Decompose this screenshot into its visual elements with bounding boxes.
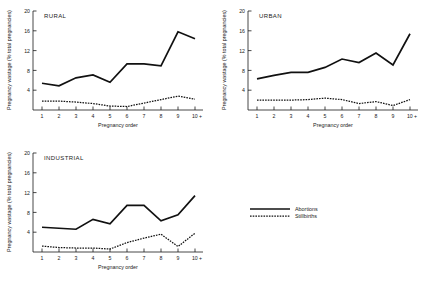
urban-xticklabel-7: 7 [358,113,361,119]
rural-panel-title: RURAL [44,13,67,19]
urban-xticklabel-9: 9 [392,113,395,119]
urban-yticklabel-16: 16 [239,28,245,34]
urban-xticklabel-8: 8 [375,113,378,119]
urban-panel-title: URBAN [259,13,282,19]
industrial-chart-svg: 20 16 12 8 4 1 2 3 4 5 6 [0,142,215,284]
industrial-xticklabel-6: 6 [126,255,129,261]
urban-xticklabel-10: 10 + [407,113,417,119]
legend-label-abortions: Abortions [295,206,318,212]
rural-yaxis-title: Pregnancy wastage (% total pregnancies) [6,10,12,110]
urban-yticklabel-20: 20 [239,8,245,14]
industrial-xticklabel-2: 2 [58,255,61,261]
industrial-axes: 20 16 12 8 4 1 2 3 4 5 6 [24,150,203,261]
rural-yticklabel-16: 16 [24,28,30,34]
urban-series-stillbirths-line [257,98,410,105]
industrial-xticklabel-9: 9 [177,255,180,261]
urban-xticklabel-5: 5 [324,113,327,119]
industrial-series-abortions-line [42,196,195,230]
legend-svg: Abortions Stillbirths [248,200,368,230]
rural-xticklabel-6: 6 [126,113,129,119]
rural-xaxis-title: Pregnancy order [98,122,138,128]
industrial-xticklabel-8: 8 [160,255,163,261]
industrial-panel-title: INDUSTRIAL [44,155,84,161]
urban-yticklabel-8: 8 [242,68,245,74]
urban-xticklabel-3: 3 [290,113,293,119]
industrial-yticklabel-20: 20 [24,150,30,156]
rural-xticklabel-1: 1 [41,113,44,119]
urban-chart-svg: 20 16 12 8 4 1 2 3 4 5 6 [215,0,430,142]
rural-xticklabel-8: 8 [160,113,163,119]
rural-xticklabel-4: 4 [92,113,95,119]
rural-axis-lines [33,11,203,110]
industrial-axis-lines [33,153,203,252]
rural-chart-svg: 20 16 12 8 4 1 2 3 4 5 6 [0,0,215,142]
industrial-xticklabel-7: 7 [143,255,146,261]
rural-xticklabel-3: 3 [75,113,78,119]
urban-yticklabel-12: 12 [239,48,245,54]
chart-panel-industrial: 20 16 12 8 4 1 2 3 4 5 6 [0,142,215,284]
chart-panel-rural: 20 16 12 8 4 1 2 3 4 5 6 [0,0,215,142]
rural-series-stillbirths-line [42,96,195,106]
industrial-xticklabel-3: 3 [75,255,78,261]
industrial-yticklabel-12: 12 [24,190,30,196]
industrial-series-stillbirths-line [42,233,195,249]
urban-xticklabel-4: 4 [307,113,310,119]
rural-xticklabel-9: 9 [177,113,180,119]
industrial-yticklabel-16: 16 [24,170,30,176]
figure-legend: Abortions Stillbirths [248,200,368,230]
urban-xticklabel-1: 1 [256,113,259,119]
rural-yticklabel-4: 4 [27,87,30,93]
urban-yaxis-title: Pregnancy wastage (% total pregnancies) [221,10,227,110]
industrial-xaxis-title: Pregnancy order [98,264,138,270]
urban-xticklabel-6: 6 [341,113,344,119]
urban-series-abortions-line [257,34,410,79]
rural-xticklabel-5: 5 [109,113,112,119]
rural-yticklabel-20: 20 [24,8,30,14]
urban-xticklabel-2: 2 [273,113,276,119]
rural-xticklabel-7: 7 [143,113,146,119]
urban-xaxis-title: Pregnancy order [313,122,353,128]
industrial-yticklabel-8: 8 [27,210,30,216]
industrial-xticklabel-1: 1 [41,255,44,261]
rural-axes: 20 16 12 8 4 1 2 3 4 5 6 [24,8,203,119]
rural-xticklabel-2: 2 [58,113,61,119]
rural-xticklabel-10: 10 + [192,113,202,119]
rural-yticklabel-8: 8 [27,68,30,74]
urban-yticklabel-4: 4 [242,87,245,93]
industrial-xticklabel-10: 10 + [192,255,202,261]
chart-panel-urban: 20 16 12 8 4 1 2 3 4 5 6 [215,0,430,142]
industrial-yaxis-title: Pregnancy wastage (% total pregnancies) [6,152,12,252]
industrial-xticklabel-5: 5 [109,255,112,261]
rural-series-abortions-line [42,32,195,86]
urban-axis-lines [248,11,418,110]
industrial-xticklabel-4: 4 [92,255,95,261]
legend-label-stillbirths: Stillbirths [295,213,317,219]
pregnancy-wastage-figure: 20 16 12 8 4 1 2 3 4 5 6 [0,0,430,284]
rural-yticklabel-12: 12 [24,48,30,54]
industrial-yticklabel-4: 4 [27,229,30,235]
